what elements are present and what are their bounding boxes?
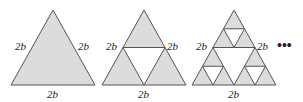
stage-1-bottom-label: 2b: [138, 88, 150, 100]
stage-2-bottom-label: 2b: [228, 88, 240, 100]
sierpinski-diagram: 2b 2b 2b 2b 2b 2b 2b 2b 2b •••: [0, 0, 303, 102]
stage-2-right-label: 2b: [257, 40, 269, 52]
stage-2-left-label: 2b: [196, 40, 208, 52]
stage-0-right-label: 2b: [78, 40, 90, 52]
stage-1-right-label: 2b: [167, 40, 179, 52]
stage-1-left-label: 2b: [106, 40, 118, 52]
continuation-ellipsis: •••: [277, 38, 292, 53]
stage-0-bottom-label: 2b: [47, 88, 59, 100]
stage-0-left-label: 2b: [15, 40, 27, 52]
